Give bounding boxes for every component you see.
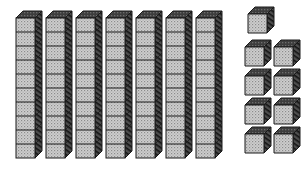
unit-cube bbox=[274, 69, 300, 95]
unit-cube bbox=[245, 127, 271, 153]
box-front-face bbox=[245, 47, 264, 66]
tens-rod bbox=[46, 11, 72, 158]
tens-rod bbox=[16, 11, 42, 158]
unit-cube bbox=[274, 98, 300, 124]
box-front-face bbox=[274, 47, 293, 66]
box-front-face bbox=[245, 105, 264, 124]
unit-cube bbox=[248, 7, 274, 33]
box-front-face bbox=[245, 134, 264, 153]
unit-cube bbox=[245, 69, 271, 95]
unit-cube bbox=[274, 127, 300, 153]
tens-rod bbox=[106, 11, 132, 158]
box-front-face bbox=[248, 14, 267, 33]
tens-rod bbox=[196, 11, 222, 158]
tens-rod bbox=[166, 11, 192, 158]
box-front-face bbox=[274, 105, 293, 124]
box-front-face bbox=[245, 76, 264, 95]
tens-rods-group bbox=[16, 11, 222, 158]
tens-rod bbox=[136, 11, 162, 158]
box-front-face bbox=[274, 76, 293, 95]
unit-cube bbox=[245, 98, 271, 124]
tens-rod bbox=[76, 11, 102, 158]
box-front-face bbox=[274, 134, 293, 153]
unit-cube bbox=[245, 40, 271, 66]
base-ten-blocks-illustration bbox=[0, 0, 302, 171]
unit-cube bbox=[274, 40, 300, 66]
